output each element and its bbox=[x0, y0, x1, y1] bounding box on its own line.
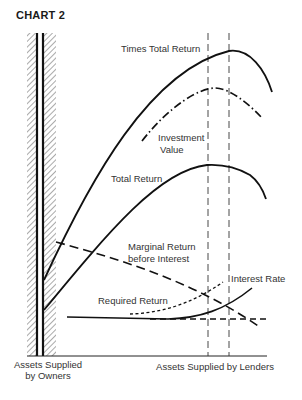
chart-canvas bbox=[0, 0, 302, 400]
curve-total-return bbox=[44, 165, 266, 310]
label-marginal-return-2: before Interest bbox=[128, 253, 189, 264]
label-marginal-return-1: Marginal Return bbox=[128, 241, 196, 252]
label-investment-value-2: Value bbox=[160, 144, 184, 155]
x-label-owners: Assets Supplied by Owners bbox=[6, 359, 90, 381]
label-times-total-return: Times Total Return bbox=[121, 43, 200, 54]
owners-hatch-left bbox=[27, 33, 37, 356]
label-interest-rate: Interest Rate bbox=[231, 273, 285, 284]
x-label-lenders: Assets Supplied by Lenders bbox=[145, 361, 285, 372]
label-total-return: Total Return bbox=[111, 173, 162, 184]
label-required-return: Required Return bbox=[98, 295, 168, 306]
label-investment-value-1: Investment bbox=[158, 132, 204, 143]
